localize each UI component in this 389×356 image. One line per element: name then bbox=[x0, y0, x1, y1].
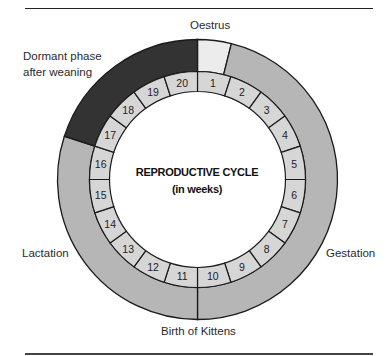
week-number: 14 bbox=[104, 218, 116, 230]
label-birth-of-kittens: Birth of Kittens bbox=[161, 323, 236, 339]
week-number: 11 bbox=[177, 270, 188, 282]
week-number: 18 bbox=[122, 104, 134, 116]
week-number: 9 bbox=[239, 261, 245, 273]
week-number: 7 bbox=[282, 218, 288, 230]
label-oestrus: Oestrus bbox=[190, 17, 230, 33]
label-gestation: Gestation bbox=[326, 245, 375, 261]
week-number: 16 bbox=[95, 158, 107, 170]
week-number: 5 bbox=[291, 158, 297, 170]
week-number: 10 bbox=[207, 270, 219, 282]
week-number: 13 bbox=[122, 243, 134, 255]
week-number: 4 bbox=[282, 129, 288, 141]
week-number: 20 bbox=[176, 77, 188, 89]
label-dormant-line2: after weaning bbox=[23, 64, 92, 80]
diagram-subtitle: (in weeks) bbox=[117, 183, 277, 195]
week-number: 3 bbox=[264, 104, 270, 116]
diagram-title: REPRODUCTIVE CYCLE bbox=[117, 166, 277, 178]
week-number: 19 bbox=[147, 86, 159, 98]
week-number: 12 bbox=[147, 261, 159, 273]
week-number: 2 bbox=[239, 86, 245, 98]
week-number: 17 bbox=[104, 129, 116, 141]
week-number: 1 bbox=[210, 77, 216, 89]
week-number: 8 bbox=[264, 243, 270, 255]
week-number: 15 bbox=[95, 189, 107, 201]
phase-segment-lactation bbox=[58, 136, 198, 319]
label-lactation: Lactation bbox=[22, 245, 69, 261]
week-ring: 1234567891011121314151617181920 bbox=[90, 72, 306, 288]
label-dormant-line1: Dormant phase bbox=[23, 48, 102, 64]
week-number: 6 bbox=[291, 189, 297, 201]
bottom-rule bbox=[25, 353, 373, 355]
